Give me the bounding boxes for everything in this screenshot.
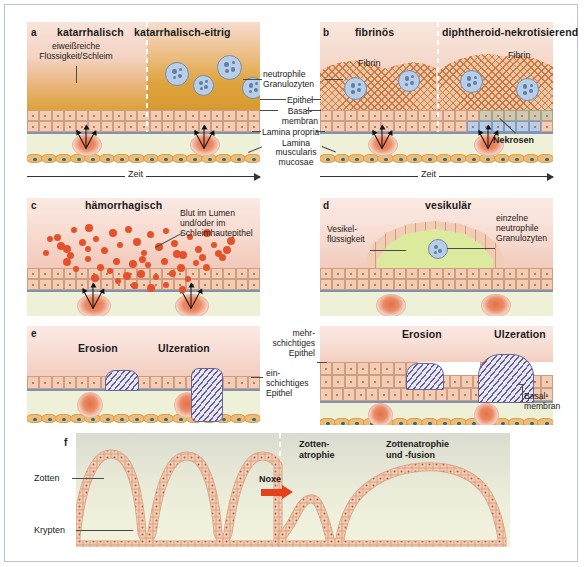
panel-e-left-ulceration <box>191 368 223 422</box>
epithelial-cell <box>52 376 64 389</box>
epithelial-cell <box>504 268 516 279</box>
epithelial-cell <box>443 279 455 290</box>
epithelial-cell <box>369 279 381 290</box>
erythrocyte <box>177 264 185 272</box>
epithelial-cell <box>455 121 467 132</box>
epithelial-cell <box>516 279 528 290</box>
epithelial-cell <box>516 268 528 279</box>
epithelial-cell <box>332 268 344 279</box>
erythrocyte <box>73 266 79 272</box>
legend-leader-neutro-left <box>243 79 262 80</box>
panel-e-left-erosion <box>105 370 139 391</box>
epithelial-cell <box>174 110 186 121</box>
legend-leader-propria-left <box>252 131 261 132</box>
epithelial-cell <box>199 110 211 121</box>
necrotic-epithelial-cell <box>504 110 516 121</box>
panel-e-left-lamina-muscularis <box>27 414 260 423</box>
erythrocyte <box>123 272 131 280</box>
panel-d-vesicle-fluid-label: Vesikel- flüssigkeit <box>327 224 365 244</box>
epithelial-cell <box>357 375 369 388</box>
panel-e-left-erosion-label: Erosion <box>78 342 118 354</box>
epithelial-cell <box>52 279 64 290</box>
epithelial-cell <box>369 110 381 121</box>
epithelial-cell <box>455 279 467 290</box>
legend-lamina-muscularis-mucosae: Lamina muscularis mucosae <box>268 139 324 167</box>
panel-e-right-epithelium-row-2 <box>320 375 406 388</box>
erythrocyte <box>115 278 121 284</box>
epithelial-cell <box>39 121 51 132</box>
erythrocyte <box>131 282 138 289</box>
epithelial-cell <box>39 110 51 121</box>
panel-e-simple-leader <box>251 377 263 378</box>
epithelial-cell <box>345 375 357 388</box>
epithelial-cell <box>248 279 260 290</box>
legend-leader-epithel-left <box>260 99 286 100</box>
panel-a-exudate-label: eiweißreiche Flüssigkeit/Schleim <box>30 41 122 61</box>
panel-c-blood-label: Blut im Lumen und/oder im Schleimhautepi… <box>180 208 253 238</box>
panel-b-left-title: fibrinös <box>355 26 394 38</box>
epithelial-cell <box>162 110 174 121</box>
panel-d-neutrophil <box>428 239 448 259</box>
panel-b-right-title: diphtheroid-nekrotisierend <box>442 26 578 38</box>
erythrocyte <box>153 274 159 280</box>
panel-b-letter: b <box>323 27 329 39</box>
epithelial-cell <box>345 362 357 375</box>
epithelial-cell <box>76 376 88 389</box>
panel-d-vesicle-fluid-leader <box>370 250 406 251</box>
epithelial-cell <box>406 110 418 121</box>
erythrocyte <box>139 256 146 263</box>
panel-e-simple-label: ein- schichtiges Epithel <box>266 368 322 398</box>
panel-a-time-label: Zeit <box>125 169 146 180</box>
epithelial-cell <box>332 362 344 375</box>
panel-f-villi-label: Zotten <box>34 473 60 484</box>
neutrophil-granulocyte <box>516 78 539 101</box>
epithelial-cell <box>369 375 381 388</box>
neutrophil-granulocyte <box>193 75 214 96</box>
epithelial-cell <box>381 268 393 279</box>
epithelial-cell <box>467 268 479 279</box>
erythrocyte <box>117 242 123 248</box>
panel-e-right-epithelium-row-3 <box>320 388 482 401</box>
epithelial-cell <box>88 376 100 389</box>
erythrocyte <box>203 264 210 271</box>
panel-d-neutrophils-leader <box>447 248 495 249</box>
epithelial-cell <box>459 388 471 401</box>
panel-c-letter: c <box>31 200 37 212</box>
necrotic-epithelial-cell <box>529 121 541 132</box>
epithelial-cell <box>430 279 442 290</box>
erythrocyte <box>107 268 113 274</box>
panel-e-letter: e <box>31 328 37 340</box>
epithelial-cell <box>236 268 248 279</box>
panel-c-title: hämorrhagisch <box>85 199 162 211</box>
neutrophil-granulocyte <box>344 77 367 100</box>
epithelial-cell <box>27 279 39 290</box>
panel-f-atrophy-fusion-label: Zottenatrophie und -fusion <box>386 439 449 460</box>
erythrocyte <box>101 247 108 254</box>
panel-d-epithelium-row-2 <box>320 279 553 290</box>
epithelial-cell <box>27 121 39 132</box>
erythrocyte <box>67 252 74 259</box>
erythrocyte <box>54 234 61 241</box>
epithelial-cell <box>366 388 378 401</box>
epithelial-cell <box>174 121 186 132</box>
epithelial-cell <box>418 268 430 279</box>
epithelial-cell <box>381 375 393 388</box>
necrotic-epithelial-cell <box>516 110 528 121</box>
epithelial-cell <box>150 110 162 121</box>
necrotic-epithelial-cell <box>479 110 491 121</box>
epithelial-cell <box>492 279 504 290</box>
epithelial-cell <box>418 110 430 121</box>
epithelial-cell <box>345 268 357 279</box>
erythrocyte <box>109 229 117 237</box>
epithelial-cell <box>223 110 235 121</box>
legend-leader-propria-right <box>316 131 325 132</box>
panel-a-lamina-muscularis <box>27 154 260 163</box>
panel-e-right-lamina-muscularis <box>320 418 553 425</box>
epithelial-cell <box>355 388 367 401</box>
epithelial-cell <box>113 121 125 132</box>
epithelial-cell <box>394 110 406 121</box>
necrotic-epithelial-cell <box>541 110 553 121</box>
epithelial-cell <box>137 376 149 389</box>
erythrocyte <box>173 250 181 258</box>
panel-e-basal-membrane-leader-h <box>518 384 524 385</box>
